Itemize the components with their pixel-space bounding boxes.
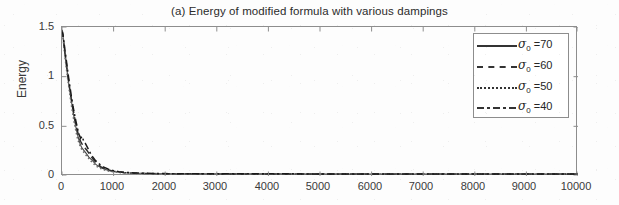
legend-box: σ0 =70 σ0 =60 σ0 =50 σ0 =40 (473, 33, 569, 118)
chart-title: (a) Energy of modified formula with vari… (0, 5, 619, 17)
y-tick-label-0.5: 0.5 (8, 119, 54, 131)
legend-item-3: σ0 =40 (474, 97, 570, 118)
x-tick-label-7000: 7000 (391, 180, 451, 192)
legend-label-0: σ0 =70 (518, 37, 552, 53)
legend-line-sample-solid (477, 40, 517, 52)
figure-canvas: (a) Energy of modified formula with vari… (0, 0, 619, 205)
legend-value-0: =70 (534, 38, 553, 50)
x-tick-label-3000: 3000 (185, 180, 245, 192)
y-tick-label-0: 0 (8, 168, 54, 180)
legend-value-3: =40 (534, 100, 553, 112)
y-tick-label-1.5: 1.5 (8, 20, 54, 32)
x-tick-label-5000: 5000 (288, 180, 348, 192)
legend-item-0: σ0 =70 (474, 35, 570, 56)
legend-label-3: σ0 =40 (518, 99, 552, 115)
legend-item-2: σ0 =50 (474, 77, 570, 98)
legend-line-sample-dashed (477, 61, 517, 73)
legend-line-sample-dotted (477, 82, 517, 94)
legend-line-sample-dashdot (477, 102, 517, 114)
legend-label-2: σ0 =50 (518, 79, 552, 95)
legend-item-1: σ0 =60 (474, 56, 570, 77)
legend-value-2: =50 (534, 80, 553, 92)
legend-label-1: σ0 =60 (518, 58, 552, 74)
x-tick-label-1000: 1000 (82, 180, 142, 192)
x-tick-label-10000: 10000 (546, 180, 606, 192)
legend-value-1: =60 (534, 59, 553, 71)
x-tick-label-9000: 9000 (494, 180, 554, 192)
y-tick-label-1: 1 (8, 69, 54, 81)
